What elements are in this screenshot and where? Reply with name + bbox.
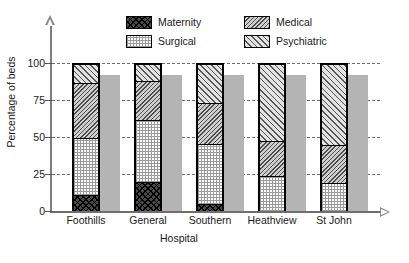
segment-psychiatric-heathview[interactable] bbox=[260, 65, 284, 141]
segment-medical-heathview[interactable] bbox=[260, 141, 284, 176]
segment-medical-general[interactable] bbox=[136, 81, 160, 120]
y-tick-label-0: 0 bbox=[3, 206, 45, 217]
bar-heathview[interactable] bbox=[258, 63, 286, 211]
legend-item-maternity: Maternity bbox=[126, 16, 244, 29]
segment-medical-st-john[interactable] bbox=[322, 145, 346, 183]
bar-foothills[interactable] bbox=[72, 63, 100, 211]
bar-general[interactable] bbox=[134, 63, 162, 211]
x-axis-line bbox=[50, 211, 380, 213]
legend-swatch-icon-psychiatric bbox=[244, 35, 270, 48]
x-axis-arrow-inner-icon bbox=[381, 209, 388, 215]
legend-swatch-icon-maternity bbox=[126, 16, 152, 29]
bar-st-john[interactable] bbox=[320, 63, 348, 211]
legend-item-medical: Medical bbox=[244, 16, 398, 29]
segment-maternity-southern[interactable] bbox=[198, 204, 222, 211]
y-tick-75 bbox=[45, 100, 52, 101]
legend-swatch-icon-surgical bbox=[126, 35, 152, 48]
legend-label-psychiatric: Psychiatric bbox=[276, 36, 327, 47]
legend-item-surgical: Surgical bbox=[126, 35, 244, 48]
legend-label-surgical: Surgical bbox=[158, 36, 196, 47]
legend-item-psychiatric: Psychiatric bbox=[244, 35, 398, 48]
segment-surgical-southern[interactable] bbox=[198, 144, 222, 204]
y-tick-label-75: 75 bbox=[3, 95, 45, 106]
y-tick-label-50: 50 bbox=[3, 132, 45, 143]
segment-medical-foothills[interactable] bbox=[74, 83, 98, 138]
segment-surgical-st-john[interactable] bbox=[322, 183, 346, 211]
segment-medical-southern[interactable] bbox=[198, 103, 222, 144]
segment-psychiatric-general[interactable] bbox=[136, 65, 160, 81]
segment-maternity-foothills[interactable] bbox=[74, 195, 98, 211]
segment-surgical-general[interactable] bbox=[136, 120, 160, 181]
y-axis-line bbox=[50, 24, 52, 212]
x-axis-title: Hospital bbox=[160, 232, 198, 244]
legend-label-medical: Medical bbox=[276, 17, 312, 28]
bar-southern[interactable] bbox=[196, 63, 224, 211]
y-tick-0 bbox=[45, 211, 52, 212]
chart-legend: Maternity Medical Surgical Psychiatric bbox=[126, 13, 398, 51]
segment-psychiatric-st-john[interactable] bbox=[322, 65, 346, 145]
stacked-bar-chart: Maternity Medical Surgical Psychiatric P… bbox=[0, 0, 409, 263]
y-tick-50 bbox=[45, 137, 52, 138]
y-tick-label-100: 100 bbox=[3, 58, 45, 69]
segment-psychiatric-foothills[interactable] bbox=[74, 65, 98, 83]
x-tick-label-st-john: St John bbox=[289, 215, 379, 226]
y-tick-100 bbox=[45, 63, 52, 64]
legend-label-maternity: Maternity bbox=[158, 17, 201, 28]
y-axis-tick-labels: 0255075100 bbox=[0, 0, 45, 263]
segment-surgical-heathview[interactable] bbox=[260, 176, 284, 211]
segment-psychiatric-southern[interactable] bbox=[198, 65, 222, 103]
y-axis-arrow-inner-icon bbox=[47, 19, 53, 26]
segment-maternity-general[interactable] bbox=[136, 182, 160, 211]
y-tick-label-25: 25 bbox=[3, 169, 45, 180]
segment-surgical-foothills[interactable] bbox=[74, 138, 98, 195]
y-tick-25 bbox=[45, 174, 52, 175]
legend-swatch-icon-medical bbox=[244, 16, 270, 29]
